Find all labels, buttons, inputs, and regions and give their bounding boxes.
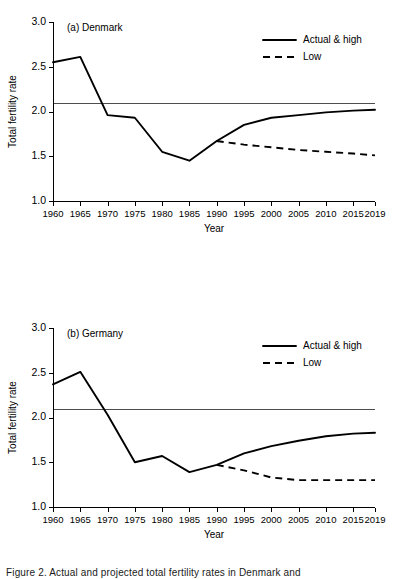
y-tick-label: 2.0 bbox=[31, 410, 46, 422]
series-low bbox=[217, 141, 375, 155]
x-tick-label: 1980 bbox=[152, 208, 173, 219]
series-actual-high bbox=[53, 57, 375, 161]
x-tick-label: 1975 bbox=[124, 514, 145, 525]
x-tick-label: 2000 bbox=[261, 208, 282, 219]
y-axis-title: Total fertility rate bbox=[7, 381, 18, 454]
x-axis-title: Year bbox=[204, 223, 225, 234]
x-tick-label: 1995 bbox=[233, 208, 254, 219]
y-tick-label: 1.0 bbox=[31, 500, 46, 512]
chart-svg-germany: 1.01.52.02.53.01960196519701975198019851… bbox=[0, 312, 396, 570]
y-tick-label: 2.0 bbox=[31, 104, 46, 116]
x-tick-label: 2000 bbox=[261, 514, 282, 525]
x-tick-label: 1965 bbox=[70, 514, 91, 525]
x-tick-label: 2019 bbox=[364, 208, 385, 219]
x-axis-title: Year bbox=[204, 529, 225, 540]
y-tick-label: 2.5 bbox=[31, 366, 46, 378]
x-tick-label: 1965 bbox=[70, 208, 91, 219]
x-tick-label: 2005 bbox=[288, 208, 309, 219]
x-tick-label: 1960 bbox=[42, 208, 63, 219]
figure-container: 1.01.52.02.53.01960196519701975198019851… bbox=[0, 0, 396, 579]
chart-panel-germany: 1.01.52.02.53.01960196519701975198019851… bbox=[0, 312, 396, 570]
chart-panel-denmark: 1.01.52.02.53.01960196519701975198019851… bbox=[0, 6, 396, 264]
x-tick-label: 1970 bbox=[97, 514, 118, 525]
legend-label-1: Actual & high bbox=[303, 340, 362, 351]
plot-area-denmark: 1.01.52.02.53.01960196519701975198019851… bbox=[7, 15, 386, 234]
y-tick-label: 1.5 bbox=[31, 149, 46, 161]
series-actual-high bbox=[53, 372, 375, 472]
y-tick-label: 1.5 bbox=[31, 455, 46, 467]
y-tick-label: 3.0 bbox=[31, 321, 46, 333]
legend-label-2: Low bbox=[303, 51, 322, 62]
x-tick-label: 2010 bbox=[315, 514, 336, 525]
x-tick-label: 1985 bbox=[179, 208, 200, 219]
x-tick-label: 1990 bbox=[206, 208, 227, 219]
plot-area-germany: 1.01.52.02.53.01960196519701975198019851… bbox=[7, 321, 386, 540]
y-tick-label: 2.5 bbox=[31, 60, 46, 72]
chart-svg-denmark: 1.01.52.02.53.01960196519701975198019851… bbox=[0, 6, 396, 264]
panel-title: (a) Denmark bbox=[67, 22, 124, 33]
y-tick-label: 3.0 bbox=[31, 15, 46, 27]
x-tick-label: 1990 bbox=[206, 514, 227, 525]
x-tick-label: 1960 bbox=[42, 514, 63, 525]
x-tick-label: 2015 bbox=[343, 208, 364, 219]
figure-caption: Figure 2. Actual and projected total fer… bbox=[0, 566, 396, 579]
figure-caption-row: Figure 2. Actual and projected total fer… bbox=[0, 566, 396, 579]
panel-title: (b) Germany bbox=[67, 328, 123, 339]
x-tick-label: 1985 bbox=[179, 514, 200, 525]
y-tick-label: 1.0 bbox=[31, 194, 46, 206]
series-low bbox=[217, 465, 375, 480]
x-tick-label: 2010 bbox=[315, 208, 336, 219]
y-axis-title: Total fertility rate bbox=[7, 75, 18, 148]
x-tick-label: 2015 bbox=[343, 514, 364, 525]
x-tick-label: 1970 bbox=[97, 208, 118, 219]
x-tick-label: 1980 bbox=[152, 514, 173, 525]
x-tick-label: 2005 bbox=[288, 514, 309, 525]
legend-label-1: Actual & high bbox=[303, 34, 362, 45]
x-tick-label: 1995 bbox=[233, 514, 254, 525]
x-tick-label: 2019 bbox=[364, 514, 385, 525]
legend-label-2: Low bbox=[303, 357, 322, 368]
x-tick-label: 1975 bbox=[124, 208, 145, 219]
